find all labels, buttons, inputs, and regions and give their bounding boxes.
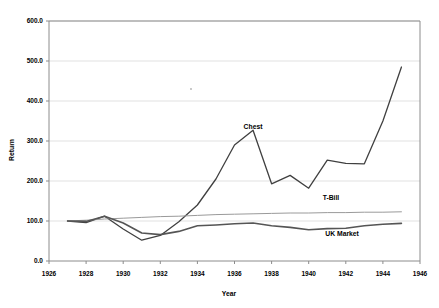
y-tick-label-0.0: 0.0 xyxy=(34,257,43,264)
x-tick-label-1944: 1944 xyxy=(376,270,391,277)
x-tick-label-1938: 1938 xyxy=(264,270,279,277)
x-tick-label-1928: 1928 xyxy=(79,270,94,277)
y-tick-label-200.0: 200.0 xyxy=(27,177,44,184)
x-tick-label-1926: 1926 xyxy=(42,270,57,277)
data-series xyxy=(68,67,402,240)
y-tick-label-100.0: 100.0 xyxy=(27,217,44,224)
y-axis-title: Return xyxy=(8,139,15,161)
series-annotations: ChestT-BillUK Market xyxy=(244,123,360,237)
x-axis-tick-labels: 1926192819301932193419361938194019421944… xyxy=(42,270,428,277)
x-tick-label-1946: 1946 xyxy=(413,270,428,277)
x-tick-label-1942: 1942 xyxy=(339,270,354,277)
series-line-t-bill xyxy=(68,212,402,221)
tick-marks xyxy=(46,21,420,264)
y-axis-tick-labels: 0.0100.0200.0300.0400.0500.0600.0 xyxy=(27,17,44,264)
chart-container: 0.0100.0200.0300.0400.0500.0600.0 192619… xyxy=(0,0,439,308)
return-line-chart: 0.0100.0200.0300.0400.0500.0600.0 192619… xyxy=(0,0,439,308)
y-tick-label-400.0: 400.0 xyxy=(27,97,44,104)
x-axis-title: Year xyxy=(222,290,237,297)
y-tick-label-600.0: 600.0 xyxy=(27,17,44,24)
series-label-uk-market: UK Market xyxy=(325,230,359,237)
x-tick-label-1940: 1940 xyxy=(301,270,316,277)
x-tick-label-1934: 1934 xyxy=(190,270,205,277)
y-tick-label-300.0: 300.0 xyxy=(27,137,44,144)
decorative-speck xyxy=(190,88,192,90)
x-tick-label-1930: 1930 xyxy=(116,270,131,277)
y-tick-label-500.0: 500.0 xyxy=(27,57,44,64)
series-label-t-bill: T-Bill xyxy=(323,194,340,201)
x-tick-label-1932: 1932 xyxy=(153,270,168,277)
series-label-chest: Chest xyxy=(244,123,264,130)
gridlines xyxy=(49,21,420,221)
x-tick-label-1936: 1936 xyxy=(227,270,242,277)
